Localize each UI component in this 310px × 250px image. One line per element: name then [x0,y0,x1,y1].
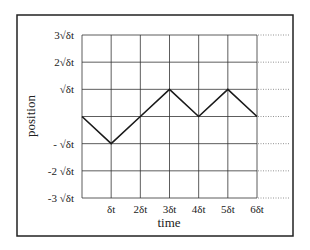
x-tick-label: 4δt [192,203,206,215]
x-tick-label: 3δt [163,203,177,215]
y-tick-label: 3√δt [54,29,74,41]
grid [82,35,257,198]
y-tick-label: -2 √δt [48,165,74,177]
x-tick-label: δt [107,203,115,215]
x-tick-label: 2δt [133,203,147,215]
x-tick-label: 5δt [221,203,235,215]
y-tick-labels: 3√δt2√δt√δt- √δt-2 √δt-3 √δt [48,29,74,204]
x-tick-label: 6δt [250,203,264,215]
y-tick-label: - √δt [53,138,74,150]
dotted-extensions [258,35,289,198]
x-axis-label: time [157,215,180,230]
y-tick-label: √δt [60,83,74,95]
y-tick-label: -3 √δt [48,192,74,204]
y-axis-label: position [23,95,38,137]
x-tick-labels: δt2δt3δt4δt5δt6δt [107,203,264,215]
chart: 3√δt2√δt√δt- √δt-2 √δt-3 √δt δt2δt3δt4δt… [0,0,310,250]
y-tick-label: 2√δt [54,56,74,68]
